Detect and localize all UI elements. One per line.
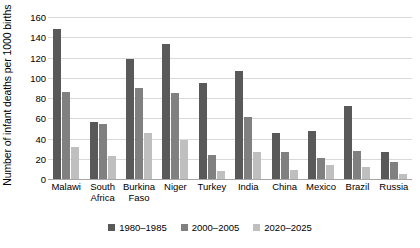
bar-group <box>230 17 266 179</box>
bar <box>180 140 188 179</box>
x-axis-label: China <box>266 182 302 203</box>
bar-group <box>266 17 302 179</box>
bar <box>53 29 61 179</box>
bar-group <box>121 17 157 179</box>
y-tick-label: 120 <box>16 54 46 64</box>
legend-item[interactable]: 2000–2005 <box>181 223 240 233</box>
legend-label: 2020–2025 <box>264 223 312 233</box>
bar <box>235 71 243 179</box>
bar <box>71 147 79 179</box>
legend-swatch-icon <box>253 224 260 231</box>
x-axis-label: Turkey <box>194 182 230 203</box>
x-axis-label: South Africa <box>84 182 120 203</box>
bar <box>317 158 325 179</box>
x-axis-label: Burkina Faso <box>121 182 157 203</box>
bar <box>272 133 280 179</box>
y-tick-label: 140 <box>16 33 46 43</box>
bar <box>244 117 252 179</box>
bar <box>381 152 389 179</box>
bar-group <box>376 17 412 179</box>
bar <box>99 124 107 179</box>
y-tick-label: 0 <box>16 175 46 185</box>
bar <box>199 83 207 179</box>
legend-label: 2000–2005 <box>192 223 240 233</box>
x-axis-label: Russia <box>376 182 412 203</box>
bar <box>253 152 261 179</box>
bar-group <box>303 17 339 179</box>
bar <box>399 174 407 179</box>
bar <box>162 44 170 179</box>
bar <box>217 171 225 179</box>
bar <box>353 151 361 179</box>
bar <box>344 106 352 179</box>
y-tick-label: 20 <box>16 155 46 165</box>
bar <box>62 92 70 179</box>
legend-item[interactable]: 1980–1985 <box>108 223 167 233</box>
legend-swatch-icon <box>181 224 188 231</box>
bar <box>108 156 116 179</box>
bar <box>290 170 298 179</box>
bar <box>90 122 98 179</box>
x-axis-tick-labels: MalawiSouth AfricaBurkina FasoNigerTurke… <box>48 182 412 203</box>
bar-group <box>157 17 193 179</box>
legend-item[interactable]: 2020–2025 <box>253 223 312 233</box>
legend-label: 1980–1985 <box>119 223 167 233</box>
bar <box>308 131 316 179</box>
y-tick-label: 160 <box>16 13 46 23</box>
bar <box>171 93 179 179</box>
bar <box>281 152 289 179</box>
bar <box>144 133 152 179</box>
bar <box>390 162 398 179</box>
x-axis-label: Malawi <box>48 182 84 203</box>
x-axis-label: Mexico <box>303 182 339 203</box>
y-tick-label: 80 <box>16 94 46 104</box>
bar-group <box>339 17 375 179</box>
bar <box>362 167 370 179</box>
bars-layer <box>48 17 412 179</box>
bar-chart: Number of infant deaths per 1000 births … <box>0 0 420 248</box>
bar-group <box>48 17 84 179</box>
bar <box>135 88 143 179</box>
y-tick-label: 40 <box>16 135 46 145</box>
bar-group <box>194 17 230 179</box>
y-tick-label: 60 <box>16 114 46 124</box>
bar <box>326 165 334 179</box>
legend-swatch-icon <box>108 224 115 231</box>
y-axis-title: Number of infant deaths per 1000 births <box>0 0 16 190</box>
bar-group <box>84 17 120 179</box>
chart-legend: 1980–19852000–20052020–2025 <box>0 223 420 233</box>
y-axis-title-text: Number of infant deaths per 1000 births <box>3 4 14 185</box>
bar <box>208 155 216 179</box>
x-axis-label: India <box>230 182 266 203</box>
x-axis-label: Niger <box>157 182 193 203</box>
x-axis-line <box>48 179 412 180</box>
y-tick-label: 100 <box>16 74 46 84</box>
x-axis-label: Brazil <box>339 182 375 203</box>
bar <box>126 59 134 179</box>
